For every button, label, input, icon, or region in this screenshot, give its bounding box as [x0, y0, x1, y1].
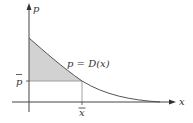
diagram-canvas: p x p = D(x) p x: [0, 0, 193, 123]
curve-label: p = D(x): [67, 58, 110, 69]
y-axis-label: p: [33, 3, 40, 14]
x-axis-arrow-icon: [169, 100, 176, 105]
p-bar-label: p: [16, 76, 23, 87]
y-axis-arrow-icon: [27, 3, 32, 10]
demand-curve-figure: p x p = D(x) p x: [0, 0, 193, 123]
x-bar-label: x: [79, 107, 85, 118]
x-axis-label: x: [179, 96, 185, 107]
